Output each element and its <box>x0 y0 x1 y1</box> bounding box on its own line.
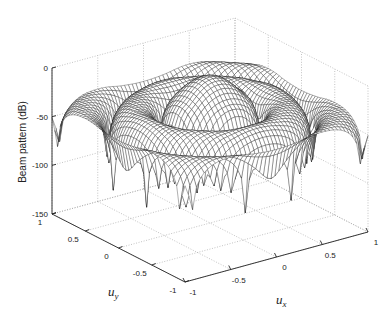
z-axis-label: Beam pattern (dB) <box>17 101 28 183</box>
y-tick-label: 1 <box>38 218 43 227</box>
surface-mesh <box>52 62 368 213</box>
x-tick-label: 0 <box>282 263 287 272</box>
x-tick-label: 0.5 <box>325 251 337 260</box>
y-tick-label: 0 <box>104 252 109 261</box>
z-tick-label: -100 <box>32 161 49 170</box>
y-tick-label: -0.5 <box>133 269 147 278</box>
z-tick-label: 0 <box>44 64 49 73</box>
y-axis-label: uy <box>108 284 119 301</box>
y-tick-label: 0.5 <box>68 235 80 244</box>
x-tick-label: 1 <box>374 238 379 247</box>
y-tick-label: -1 <box>169 286 177 295</box>
x-axis-label: ux <box>276 292 287 309</box>
x-tick-label: -0.5 <box>232 276 246 285</box>
x-tick-label: -1 <box>189 288 197 297</box>
z-tick-label: -50 <box>36 113 48 122</box>
beam-pattern-surface-plot: -150-100-500-1-0.500.51-1-0.500.51 Beam … <box>0 0 392 326</box>
